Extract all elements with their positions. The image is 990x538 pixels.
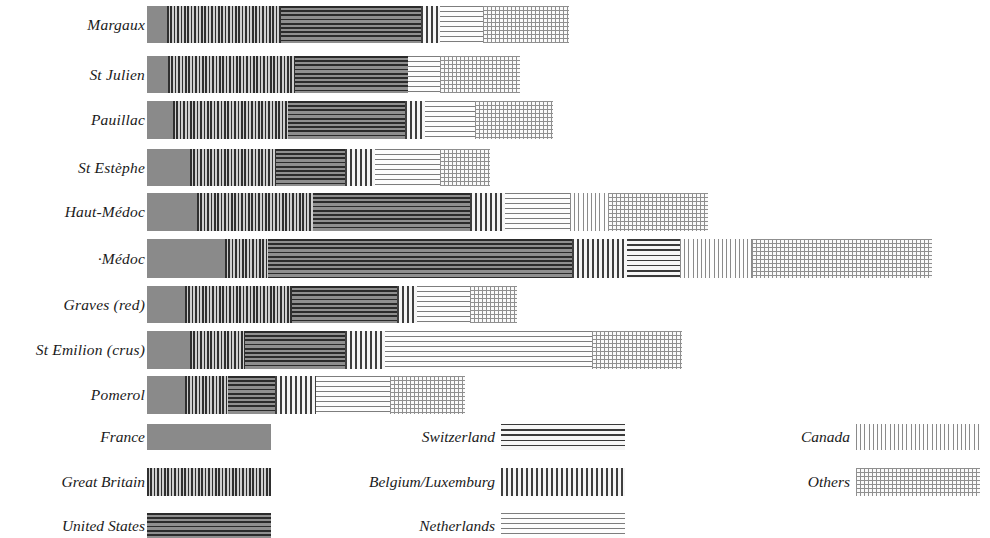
bar-segment-belgium-luxemburg (397, 286, 417, 323)
bar-segment-great-britain (185, 286, 292, 323)
legend-label-others: Others (530, 474, 850, 490)
bar-segment-netherlands (316, 376, 390, 414)
bar-track (147, 101, 553, 139)
bar-label-medoc: ·Médoc (0, 251, 145, 267)
bar-label-pomerol: Pomerol (0, 387, 145, 403)
bar-segment-united-states (292, 286, 397, 323)
bar-row-margaux: Margaux (0, 6, 990, 43)
bar-label-st-julien: St Julien (0, 67, 145, 83)
bar-track (147, 6, 569, 43)
legend-swatch-canada (856, 424, 980, 450)
bar-segment-great-britain (185, 376, 228, 414)
bar-track (147, 193, 708, 231)
bar-segment-netherlands (385, 331, 592, 369)
bar-segment-netherlands (425, 101, 475, 139)
bar-segment-others (483, 6, 569, 43)
bar-segment-canada (680, 239, 752, 278)
bar-row-st-emilion-crus: St Emilion (crus) (0, 331, 990, 369)
bar-row-medoc: ·Médoc (0, 239, 990, 278)
bar-segment-others (608, 193, 708, 231)
bar-segment-others (475, 101, 553, 139)
bar-segment-belgium-luxemburg (345, 149, 375, 186)
bar-segment-great-britain (168, 56, 295, 93)
legend-label-netherlands: Netherlands (175, 518, 495, 534)
bar-segment-netherlands (417, 286, 470, 323)
legend-swatch-others (856, 468, 980, 496)
bar-segment-netherlands (440, 6, 483, 43)
bar-row-haut-medoc: Haut-Médoc (0, 193, 990, 231)
bar-track (147, 286, 517, 323)
bar-segment-great-britain (190, 331, 245, 369)
bar-segment-belgium-luxemburg (470, 193, 505, 231)
bar-row-st-julien: St Julien (0, 56, 990, 93)
bar-segment-united-states (313, 193, 470, 231)
bar-label-st-estephe: St Estèphe (0, 160, 145, 176)
bar-track (147, 331, 682, 369)
bar-segment-others (752, 239, 932, 278)
legend-entry-canada: Canada (0, 424, 990, 450)
bar-segment-united-states (268, 239, 572, 278)
bar-label-haut-medoc: Haut-Médoc (0, 204, 145, 220)
legend-swatch-netherlands (501, 513, 625, 538)
bar-segment-netherlands (375, 149, 440, 186)
stacked-bar-chart: MargauxSt JulienPauillacSt EstèpheHaut-M… (0, 0, 990, 538)
bar-track (147, 376, 465, 414)
bar-label-margaux: Margaux (0, 17, 145, 33)
bar-segment-others (592, 331, 682, 369)
bar-segment-others (440, 56, 520, 93)
bar-segment-great-britain (225, 239, 268, 278)
bar-segment-united-states (245, 331, 345, 369)
bar-segment-great-britain (173, 101, 288, 139)
bar-segment-united-states (276, 149, 345, 186)
bar-row-st-estephe: St Estèphe (0, 149, 990, 186)
bar-segment-others (470, 286, 517, 323)
bar-segment-canada (570, 193, 608, 231)
bar-segment-great-britain (197, 193, 313, 231)
bar-track (147, 149, 490, 186)
bar-row-pomerol: Pomerol (0, 376, 990, 414)
bar-segment-belgium-luxemburg (405, 101, 425, 139)
bar-segment-belgium-luxemburg (572, 239, 627, 278)
legend-entry-netherlands: Netherlands (0, 513, 990, 538)
bar-segment-switzerland (627, 239, 680, 278)
bar-track (147, 56, 520, 93)
bar-segment-united-states (288, 101, 405, 139)
bar-segment-netherlands (505, 193, 570, 231)
bar-segment-united-states (281, 6, 421, 43)
bar-row-pauillac: Pauillac (0, 101, 990, 139)
bar-label-pauillac: Pauillac (0, 112, 145, 128)
bar-segment-france (147, 376, 185, 414)
bar-segment-france (147, 6, 167, 43)
bar-segment-others (440, 149, 490, 186)
bar-segment-france (147, 56, 168, 93)
bar-segment-belgium-luxemburg (421, 6, 440, 43)
bar-segment-belgium-luxemburg (345, 331, 385, 369)
bar-segment-netherlands (408, 56, 440, 93)
bar-segment-united-states (228, 376, 275, 414)
legend-entry-others: Others (0, 468, 990, 496)
bar-segment-france (147, 239, 225, 278)
bar-segment-great-britain (167, 6, 281, 43)
bar-segment-france (147, 193, 197, 231)
bar-label-st-emilion-crus: St Emilion (crus) (0, 342, 145, 358)
bar-segment-others (390, 376, 465, 414)
bar-segment-france (147, 149, 190, 186)
bar-segment-great-britain (190, 149, 276, 186)
bar-label-graves-red: Graves (red) (0, 297, 145, 313)
bar-row-graves-red: Graves (red) (0, 286, 990, 323)
bar-track (147, 239, 932, 278)
bar-segment-france (147, 286, 185, 323)
bar-segment-belgium-luxemburg (275, 376, 316, 414)
bar-segment-united-states (295, 56, 408, 93)
bar-segment-france (147, 101, 173, 139)
bar-segment-france (147, 331, 190, 369)
legend-label-canada: Canada (530, 429, 850, 445)
